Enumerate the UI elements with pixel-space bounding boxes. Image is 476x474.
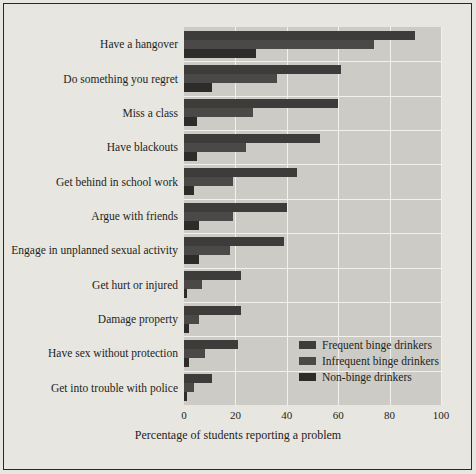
bar [184,186,194,195]
bar [184,237,284,246]
bar [184,40,374,49]
legend-item: Non-binge drinkers [299,369,459,384]
legend-item: Infrequent binge drinkers [299,353,459,368]
x-tick-label: 60 [333,409,344,421]
bar [184,31,415,40]
gridline-horizontal [184,268,441,269]
bar [184,315,199,324]
bar [184,306,241,315]
bar-group [184,271,441,298]
bar [184,203,287,212]
bar-group [184,65,441,92]
bar [184,289,187,298]
bar [184,143,246,152]
x-tick-label: 80 [384,409,395,421]
bar [184,212,233,221]
x-tick-label: 40 [281,409,292,421]
bar [184,49,256,58]
chart-legend: Frequent binge drinkersInfrequent binge … [299,337,459,385]
bar [184,383,194,392]
bar [184,65,341,74]
bar-group [184,99,441,126]
bar [184,168,297,177]
category-label: Get into trouble with police [0,382,178,394]
category-label: Miss a class [0,107,178,119]
legend-label: Frequent binge drinkers [322,339,432,351]
bar-group [184,237,441,264]
legend-label: Non-binge drinkers [322,371,412,383]
x-axis: 020406080100 [184,405,441,427]
category-label: Have a hangover [0,38,178,50]
bar [184,117,197,126]
bar [184,271,241,280]
bar-group [184,31,441,58]
bar [184,221,199,230]
legend-swatch-icon [299,341,316,349]
legend-swatch-icon [299,357,316,365]
gridline-horizontal [184,61,441,62]
legend-label: Infrequent binge drinkers [322,355,439,367]
category-label: Engage in unplanned sexual activity [0,244,178,256]
bar [184,280,202,289]
category-label: Do something you regret [0,73,178,85]
gridline-horizontal [184,199,441,200]
category-label: Have blackouts [0,141,178,153]
bar [184,324,189,333]
gridline-horizontal [184,130,441,131]
bar [184,255,199,264]
gridline-horizontal [184,302,441,303]
chart-figure: Have a hangoverDo something you regretMi… [0,0,476,474]
bar [184,99,338,108]
bar-group [184,134,441,161]
x-axis-title: Percentage of students reporting a probl… [0,428,476,443]
category-label: Get behind in school work [0,176,178,188]
gridline-horizontal [184,233,441,234]
bar [184,374,212,383]
bar [184,74,277,83]
bar [184,177,233,186]
bar-group [184,168,441,195]
category-label: Get hurt or injured [0,279,178,291]
bar-group [184,306,441,333]
category-label: Argue with friends [0,210,178,222]
bar-group [184,203,441,230]
x-tick-label: 100 [433,409,450,421]
x-tick-label: 0 [181,409,187,421]
category-axis-labels: Have a hangoverDo something you regretMi… [0,27,178,405]
bar [184,152,197,161]
bar [184,358,189,367]
bar [184,108,253,117]
legend-item: Frequent binge drinkers [299,337,459,352]
bar [184,349,205,358]
legend-swatch-icon [299,373,316,381]
bar [184,392,187,401]
category-label: Have sex without protection [0,347,178,359]
bar [184,246,230,255]
bar [184,134,320,143]
category-label: Damage property [0,313,178,325]
bar [184,83,212,92]
gridline-horizontal [184,96,441,97]
gridline-horizontal [184,164,441,165]
bar [184,340,238,349]
x-tick-label: 20 [230,409,241,421]
